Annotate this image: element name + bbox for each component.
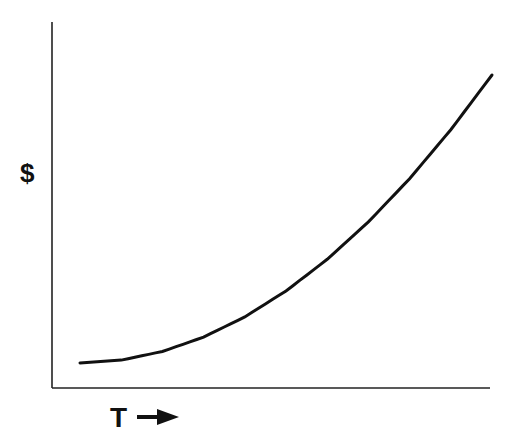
right-arrow-icon — [137, 402, 179, 434]
chart-canvas — [0, 0, 511, 446]
x-axis-label: T — [110, 402, 127, 434]
y-axis-label: $ — [20, 158, 34, 189]
x-axis-label-group: T — [110, 402, 179, 434]
growth-curve — [80, 75, 492, 363]
